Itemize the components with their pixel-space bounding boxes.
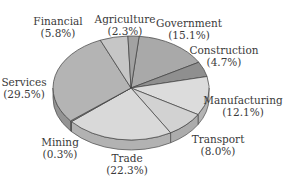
label-services-name: Services (1, 76, 46, 88)
label-trade: Trade (22.3%) (106, 152, 148, 176)
label-government-name: Government (156, 17, 222, 29)
label-financial-name: Financial (33, 15, 82, 27)
label-manufacturing-pct: (12.1%) (203, 106, 282, 118)
label-agriculture-name: Agriculture (95, 13, 156, 25)
label-services-pct: (29.5%) (1, 88, 46, 100)
label-government: Government (15.1%) (156, 17, 222, 41)
label-transport: Transport (8.0%) (192, 133, 245, 157)
label-manufacturing: Manufacturing (12.1%) (203, 94, 282, 118)
label-transport-name: Transport (192, 133, 245, 145)
label-financial-pct: (5.8%) (33, 27, 82, 39)
label-mining: Mining (0.3%) (41, 136, 79, 160)
label-trade-pct: (22.3%) (106, 164, 148, 176)
label-trade-name: Trade (106, 152, 148, 164)
label-mining-name: Mining (41, 136, 79, 148)
label-construction-pct: (4.7%) (189, 56, 258, 68)
label-financial: Financial (5.8%) (33, 15, 82, 39)
label-construction: Construction (4.7%) (189, 44, 258, 68)
label-services: Services (29.5%) (1, 76, 46, 100)
label-government-pct: (15.1%) (156, 29, 222, 41)
label-transport-pct: (8.0%) (192, 145, 245, 157)
label-mining-pct: (0.3%) (41, 148, 79, 160)
pie-top-faces (53, 36, 209, 140)
label-construction-name: Construction (189, 44, 258, 56)
label-agriculture-pct: (2.3%) (95, 25, 156, 37)
label-manufacturing-name: Manufacturing (203, 94, 282, 106)
label-agriculture: Agriculture (2.3%) (95, 13, 156, 37)
